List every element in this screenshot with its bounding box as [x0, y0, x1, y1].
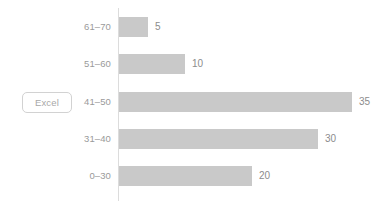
bar[interactable] — [119, 129, 318, 149]
category-label: 61–70 — [84, 22, 111, 32]
category-label: 0–30 — [89, 171, 111, 181]
bar-value-label: 35 — [359, 97, 370, 107]
category-label: 31–40 — [84, 134, 111, 144]
bar[interactable] — [119, 17, 148, 37]
category-label: 51–60 — [84, 59, 111, 69]
bar[interactable] — [119, 166, 252, 186]
bar-value-label: 20 — [259, 171, 270, 181]
plot-area: 61–70 5 51–60 10 41–50 35 31–40 30 0–30 … — [0, 0, 385, 210]
bar[interactable] — [119, 92, 352, 112]
bar-value-label: 10 — [192, 59, 203, 69]
bar-row: 61–70 5 — [0, 17, 385, 37]
bar-chart-figure: Excel 61–70 5 51–60 10 41–50 35 31–40 30 — [0, 0, 385, 210]
category-label: 41–50 — [84, 97, 111, 107]
bar[interactable] — [119, 54, 185, 74]
bar-row: 51–60 10 — [0, 54, 385, 74]
bar-value-label: 30 — [325, 134, 336, 144]
bar-value-label: 5 — [155, 22, 161, 32]
bar-row: 41–50 35 — [0, 92, 385, 112]
bar-row: 0–30 20 — [0, 166, 385, 186]
bar-row: 31–40 30 — [0, 129, 385, 149]
